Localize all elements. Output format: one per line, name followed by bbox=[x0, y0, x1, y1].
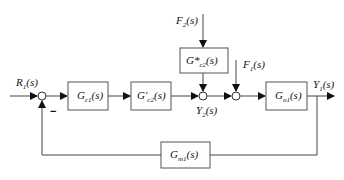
feedback-arrowhead bbox=[38, 100, 46, 108]
feedback-minus-sign: − bbox=[50, 105, 56, 117]
intermediate-signal-label: Y2(s) bbox=[196, 104, 218, 119]
output-signal-label: Y1(s) bbox=[313, 78, 335, 93]
arrowhead-sum2-top bbox=[199, 84, 207, 92]
summing-junction-3 bbox=[232, 92, 240, 100]
arrowhead-gc2star bbox=[199, 40, 207, 48]
input-signal-label: R1(s) bbox=[15, 76, 38, 91]
arrowhead-gc2prime bbox=[123, 92, 131, 100]
block-diagram: R1(s) Gc1(s) G′c2(s) F2(s) G*c2(s) Y2(s)… bbox=[0, 0, 344, 180]
arrowhead-go1 bbox=[258, 92, 266, 100]
input-arrowhead bbox=[30, 92, 38, 100]
arrowhead-gc1 bbox=[60, 92, 68, 100]
disturbance-f1-label: F1(s) bbox=[242, 58, 265, 73]
summing-junction-2 bbox=[199, 92, 207, 100]
arrowhead-sum3-top bbox=[232, 84, 240, 92]
disturbance-f2-label: F2(s) bbox=[175, 14, 198, 29]
arrowhead-sum3 bbox=[224, 92, 232, 100]
arrowhead-sum2 bbox=[191, 92, 199, 100]
summing-junction-1 bbox=[38, 92, 46, 100]
output-arrowhead bbox=[327, 92, 335, 100]
